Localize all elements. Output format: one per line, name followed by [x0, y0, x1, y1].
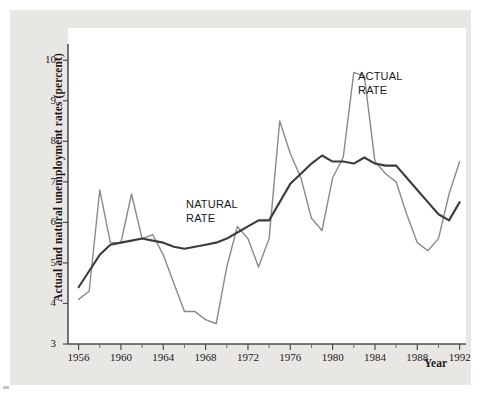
x-ticks-group	[79, 344, 460, 350]
y-tick-label: 6	[34, 215, 56, 227]
series-line-actual-rate	[79, 72, 460, 323]
y-tick-label: 5	[34, 256, 56, 268]
y-tick-label: 7	[34, 175, 56, 187]
x-tick-label: 1972	[228, 351, 268, 363]
y-tick-label: 8	[34, 134, 56, 146]
x-tick-label: 1992	[440, 351, 480, 363]
unemployment-rate-line-chart	[0, 0, 481, 401]
series-label-actual-rate: ACTUAL RATE	[358, 70, 403, 97]
y-tick-label: 3	[34, 337, 56, 349]
y-tick-label: 9	[34, 94, 56, 106]
series-label-natural-rate: NATURAL RATE	[186, 198, 238, 225]
x-tick-label: 1984	[355, 351, 395, 363]
y-tick-label: 4	[34, 296, 56, 308]
y-tick-label: 10	[34, 53, 56, 65]
x-tick-label: 1968	[186, 351, 226, 363]
x-tick-label: 1964	[143, 351, 183, 363]
x-tick-label: 1956	[59, 351, 99, 363]
x-tick-label: 1980	[313, 351, 353, 363]
x-tick-label: 1960	[101, 351, 141, 363]
axes-group	[68, 44, 466, 344]
x-tick-label: 1976	[270, 351, 310, 363]
series-line-natural-rate	[79, 155, 460, 287]
data-series-group	[79, 72, 460, 323]
figure-page: Actual and natural unemployment rates (p…	[0, 0, 481, 401]
x-tick-label: 1988	[397, 351, 437, 363]
